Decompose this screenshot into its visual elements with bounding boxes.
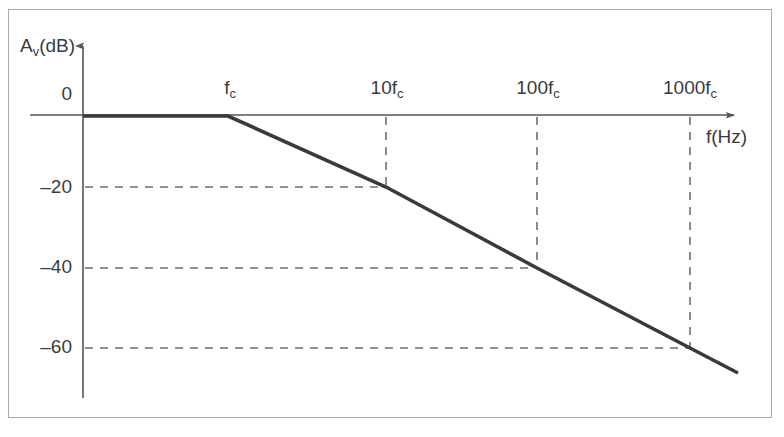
x-tick-label-1000fc: 1000fc — [640, 78, 740, 97]
y-axis-title-subscript: v — [33, 44, 39, 59]
x-tick-label-fc: fc — [208, 78, 252, 97]
y-tick-label-minus60: –60 — [4, 337, 72, 356]
plot-canvas — [0, 0, 784, 437]
y-tick-label-0: 0 — [4, 84, 72, 103]
y-axis-title: Av(dB) — [20, 36, 75, 55]
x-axis-title: f(Hz) — [706, 127, 747, 146]
x-tick-label-100fc: 100fc — [496, 78, 580, 97]
y-tick-label-minus40: –40 — [4, 257, 72, 276]
x-tick-label-10fc: 10fc — [352, 78, 422, 97]
bode-plot-figure: Av(dB) f(Hz) 0 –20 –40 –60 fc 10fc 100fc… — [0, 0, 784, 437]
response-curve — [83, 116, 738, 373]
y-tick-label-minus20: –20 — [4, 177, 72, 196]
y-axis-title-unit: (dB) — [39, 35, 75, 56]
